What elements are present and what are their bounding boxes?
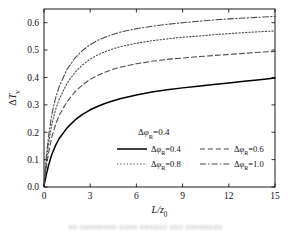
figure-caption: ▫▫ ▫▫▫▫▫▫▫▫ ▫▫▫▫ ▫▫▫▫▫▫ ▫▫▫ ▫▫▫▫▫▫▫▫ <box>0 223 291 230</box>
legend-label: ΔφR=0.6 <box>234 144 264 156</box>
svg-text:9: 9 <box>180 191 185 201</box>
svg-text:L/z0: L/z0 <box>151 204 168 219</box>
svg-text:0.2: 0.2 <box>27 128 39 138</box>
svg-text:3: 3 <box>88 191 93 201</box>
svg-text:0.4: 0.4 <box>27 73 39 83</box>
svg-text:15: 15 <box>270 191 280 201</box>
legend-label: ΔφR=0.4 <box>151 144 181 156</box>
chart-legend: ΔφR=0.4ΔφR=0.6ΔφR=0.8ΔφR=1.0 <box>117 144 264 171</box>
svg-text:ΔφR=0.4: ΔφR=0.4 <box>138 127 170 140</box>
x-tick-labels: 03691215 <box>42 191 280 201</box>
figure-container: 03691215 0.00.10.20.30.40.50.6 ΔφR=0.4 Δ… <box>0 0 291 231</box>
svg-text:12: 12 <box>224 191 234 201</box>
y-axis-label: ΔTv <box>7 90 22 106</box>
line-chart: 03691215 0.00.10.20.30.40.50.6 ΔφR=0.4 Δ… <box>0 0 291 231</box>
y-tick-labels: 0.00.10.20.30.40.50.6 <box>27 18 39 192</box>
x-axis-label: L/z0 <box>151 204 168 219</box>
svg-text:0: 0 <box>42 191 47 201</box>
svg-text:0.1: 0.1 <box>27 155 39 165</box>
plot-annotation: ΔφR=0.4 <box>138 127 170 140</box>
svg-text:0.0: 0.0 <box>27 182 39 192</box>
svg-text:0.5: 0.5 <box>27 45 39 55</box>
svg-text:0.6: 0.6 <box>27 18 39 28</box>
legend-label: ΔφR=1.0 <box>234 159 264 171</box>
svg-text:0.3: 0.3 <box>27 100 39 110</box>
legend-label: ΔφR=0.8 <box>151 159 181 171</box>
svg-text:ΔTv: ΔTv <box>7 90 22 106</box>
svg-text:6: 6 <box>134 191 139 201</box>
